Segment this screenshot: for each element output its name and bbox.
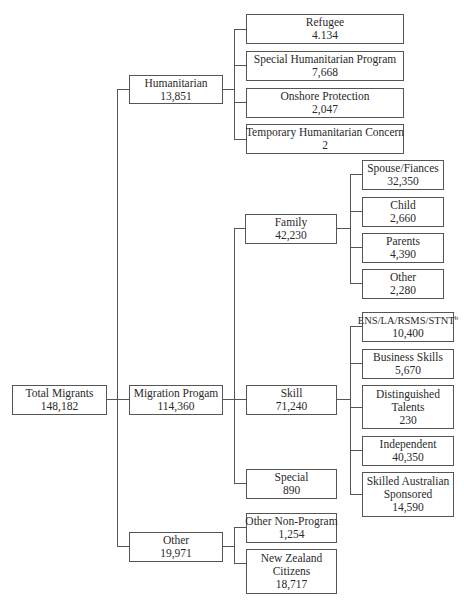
node-label: New Zealand	[261, 552, 323, 565]
node-special: Special 890	[246, 469, 337, 499]
node-value: 13,851	[160, 90, 192, 103]
node-value: 40,350	[392, 451, 424, 464]
node-value: 42,230	[275, 229, 307, 242]
connector	[222, 546, 234, 547]
node-value: 71,240	[276, 400, 308, 413]
node-label: Other	[163, 534, 189, 547]
node-label: Humanitarian	[144, 77, 207, 90]
node-value: 890	[283, 484, 300, 497]
connector	[234, 527, 246, 528]
node-value: 7,668	[312, 66, 338, 79]
footnote-marker: b	[455, 314, 459, 322]
node-value: 32,350	[387, 175, 419, 188]
node-family: Family 42,230	[245, 214, 337, 244]
node-label: Talents	[391, 401, 424, 414]
node-value: 2,047	[312, 103, 338, 116]
node-new-zealand-citizens: New Zealand Citizens 18,717	[246, 549, 337, 594]
node-label: Special Humanitarian Program	[254, 53, 396, 66]
connector	[234, 29, 235, 139]
node-ens-la-rsms-stnt: ENS/LA/RSMS/STNTb 10,400	[362, 312, 454, 342]
node-value: 4.134	[312, 29, 338, 42]
node-humanitarian: Humanitarian 13,851	[129, 75, 223, 104]
node-skilled-australian-sponsored: Skilled Australian Sponsored 14,590	[362, 472, 454, 517]
node-value: 4,390	[390, 248, 416, 261]
node-distinguished-talents: Distinguished Talents 230	[362, 385, 454, 429]
node-value: 2,280	[390, 284, 416, 297]
node-label: Business Skills	[373, 351, 443, 364]
node-label: Onshore Protection	[280, 90, 369, 103]
connector	[234, 228, 235, 484]
node-value: 14,590	[392, 501, 424, 514]
node-label: Skilled Australian	[367, 475, 450, 488]
connector	[350, 247, 362, 248]
node-refugee: Refugee 4.134	[246, 14, 404, 44]
node-value: 10,400	[392, 327, 424, 340]
node-family-other: Other 2,280	[362, 269, 444, 299]
connector	[350, 326, 351, 495]
node-value: 18,717	[276, 578, 308, 591]
node-migration-program: Migration Progam 114,360	[129, 385, 223, 415]
connector	[234, 483, 246, 484]
connector	[350, 450, 362, 451]
node-label: ENS/LA/RSMS/STNT	[358, 315, 455, 326]
connector	[350, 283, 362, 284]
node-value: 2,660	[390, 212, 416, 225]
node-value: 230	[399, 414, 416, 427]
connector	[350, 494, 362, 495]
node-label: Distinguished	[376, 388, 440, 401]
node-label: Citizens	[273, 565, 311, 578]
node-label: Special	[275, 471, 309, 484]
node-value: 148,182	[41, 400, 78, 413]
node-temporary-humanitarian-concern: Temporary Humanitarian Concern 2	[246, 124, 404, 154]
node-total-migrants: Total Migrants 148,182	[12, 385, 107, 415]
node-label: Migration Progam	[134, 387, 219, 400]
connector	[234, 102, 246, 103]
connector	[350, 174, 362, 175]
node-value: 5,670	[395, 364, 421, 377]
node-special-humanitarian-program: Special Humanitarian Program 7,668	[246, 51, 404, 81]
connector	[350, 211, 362, 212]
node-label: Sponsored	[384, 488, 433, 501]
node-value: 1,254	[279, 528, 305, 541]
node-label: Independent	[380, 438, 437, 451]
connector	[234, 527, 235, 564]
node-value: 19,971	[160, 547, 192, 560]
node-label: Spouse/Fiances	[367, 162, 439, 175]
connector	[350, 174, 351, 284]
node-parents: Parents 4,390	[362, 233, 444, 263]
connector	[336, 399, 350, 400]
node-label: Other Non-Program	[245, 515, 337, 528]
node-spouse-fiances: Spouse/Fiances 32,350	[362, 160, 444, 190]
connector	[117, 546, 129, 547]
connector	[350, 363, 362, 364]
node-skill: Skill 71,240	[246, 385, 337, 415]
node-business-skills: Business Skills 5,670	[362, 349, 454, 379]
node-other: Other 19,971	[129, 532, 223, 562]
connector	[234, 139, 246, 140]
node-label: Other	[390, 271, 416, 284]
node-label: Family	[275, 216, 308, 229]
node-label: Temporary Humanitarian Concern	[246, 126, 404, 139]
node-child: Child 2,660	[362, 197, 444, 227]
connector	[234, 65, 246, 66]
connector	[222, 89, 234, 90]
node-value: 114,360	[158, 400, 195, 413]
node-label: Child	[390, 199, 416, 212]
node-independent: Independent 40,350	[362, 436, 454, 466]
connector	[234, 563, 246, 564]
connector	[336, 228, 350, 229]
node-label: Total Migrants	[26, 387, 94, 400]
connector	[117, 89, 129, 90]
node-label: Refugee	[306, 16, 344, 29]
node-other-non-program: Other Non-Program 1,254	[246, 513, 337, 543]
node-value: 2	[322, 139, 328, 152]
node-label: Skill	[281, 387, 303, 400]
connector	[117, 89, 118, 547]
connector	[350, 407, 362, 408]
connector	[234, 29, 246, 30]
node-onshore-protection: Onshore Protection 2,047	[246, 88, 404, 118]
node-label: Parents	[386, 235, 420, 248]
